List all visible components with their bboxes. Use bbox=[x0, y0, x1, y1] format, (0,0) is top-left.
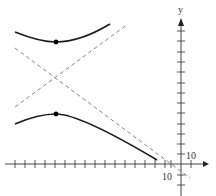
y-tick-label: 10 bbox=[186, 150, 196, 161]
y-axis-label: y bbox=[178, 4, 183, 15]
lower-branch-curve bbox=[15, 114, 157, 160]
asymptote-falling bbox=[15, 48, 190, 178]
hyperbola-figure: y 10 10 bbox=[0, 0, 216, 196]
upper-branch-curve bbox=[15, 24, 110, 42]
x-axis-arrow-icon bbox=[203, 161, 209, 167]
lower-vertex-point bbox=[54, 112, 59, 117]
asymptote-rising bbox=[15, 24, 128, 107]
x-tick-label: 10 bbox=[162, 171, 172, 182]
upper-vertex-point bbox=[54, 40, 59, 45]
x-axis bbox=[5, 160, 209, 168]
y-axis-arrow-icon bbox=[178, 18, 184, 26]
